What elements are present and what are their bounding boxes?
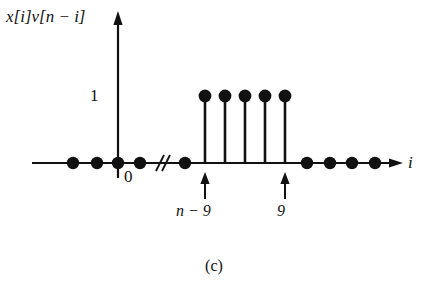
stem xyxy=(219,90,232,163)
zero-sample-dot xyxy=(179,157,191,169)
stem-head-dot xyxy=(199,90,212,103)
stem xyxy=(239,90,252,163)
zero-sample-dot xyxy=(346,157,358,169)
stem xyxy=(259,90,272,163)
stem xyxy=(279,90,292,163)
stem xyxy=(199,90,212,163)
signal-plot-figure: x[i]v[n − i] 1 0 i n − 9 9 (c) xyxy=(0,0,428,293)
unit-stems xyxy=(199,90,292,163)
right-marker-label: 9 xyxy=(277,203,285,219)
stem-head-dot xyxy=(239,90,252,103)
zero-sample-dot xyxy=(324,157,336,169)
y-axis-label: x[i]v[n − i] xyxy=(6,8,85,25)
y-axis-arrowhead xyxy=(113,11,122,25)
x-axis-arrowhead xyxy=(389,158,403,167)
left-marker-label: n − 9 xyxy=(176,203,211,219)
right-marker-arrow-icon xyxy=(280,172,289,199)
zero-sample-dot xyxy=(91,157,103,169)
amplitude-tick-label: 1 xyxy=(90,87,99,104)
zero-sample-dot xyxy=(112,157,124,169)
stem-head-dot xyxy=(219,90,232,103)
origin-label: 0 xyxy=(124,168,133,185)
left-marker-arrow-icon xyxy=(200,172,209,199)
marker-arrows xyxy=(200,172,289,199)
zero-sample-dot xyxy=(134,157,146,169)
stem-head-dot xyxy=(259,90,272,103)
zero-sample-dot xyxy=(369,157,381,169)
zero-sample-dot xyxy=(67,157,79,169)
stem-head-dot xyxy=(279,90,292,103)
x-axis-label: i xyxy=(408,154,413,171)
stem-plot-canvas xyxy=(0,0,428,293)
zero-sample-dot xyxy=(301,157,313,169)
figure-caption: (c) xyxy=(0,258,428,274)
